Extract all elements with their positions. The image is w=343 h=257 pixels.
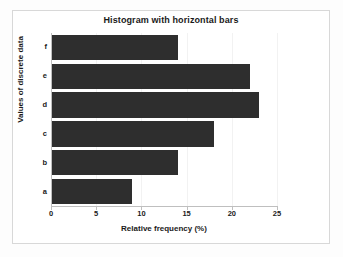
y-tick-b: b xyxy=(29,158,47,167)
y-tick-a: a xyxy=(29,187,47,196)
y-tick-c: c xyxy=(29,129,47,138)
x-axis-line xyxy=(51,206,278,207)
bar-row xyxy=(51,120,277,149)
x-tick-0: 0 xyxy=(39,209,63,218)
plot-area xyxy=(51,33,277,206)
bar-c xyxy=(51,121,214,146)
gridline xyxy=(277,33,278,206)
bar-row xyxy=(51,62,277,91)
x-tickmark xyxy=(277,207,278,210)
bar-a xyxy=(51,179,132,204)
bar-row xyxy=(51,177,277,206)
x-tickmark xyxy=(187,207,188,210)
y-tick-f: f xyxy=(29,42,47,51)
y-tick-d: d xyxy=(29,100,47,109)
x-tickmark xyxy=(141,207,142,210)
bar-row xyxy=(51,33,277,62)
x-tickmark xyxy=(51,207,52,210)
bar-row xyxy=(51,91,277,120)
y-axis-title: Values of discrete data xyxy=(16,30,25,130)
y-axis-line xyxy=(51,33,52,207)
y-tick-e: e xyxy=(29,71,47,80)
x-tick-5: 5 xyxy=(84,209,108,218)
chart-figure: Histogram with horizontal bars Values of… xyxy=(0,0,343,257)
x-tick-25: 25 xyxy=(265,209,289,218)
bar-d xyxy=(51,92,259,117)
x-tick-20: 20 xyxy=(220,209,244,218)
x-tickmark xyxy=(96,207,97,210)
x-tickmark xyxy=(232,207,233,210)
bar-f xyxy=(51,35,178,60)
x-tick-10: 10 xyxy=(129,209,153,218)
x-tick-15: 15 xyxy=(175,209,199,218)
bar-e xyxy=(51,64,250,89)
chart-title: Histogram with horizontal bars xyxy=(12,15,330,25)
x-axis-title: Relative frequency (%) xyxy=(51,224,277,233)
bar-row xyxy=(51,148,277,177)
bar-b xyxy=(51,150,178,175)
